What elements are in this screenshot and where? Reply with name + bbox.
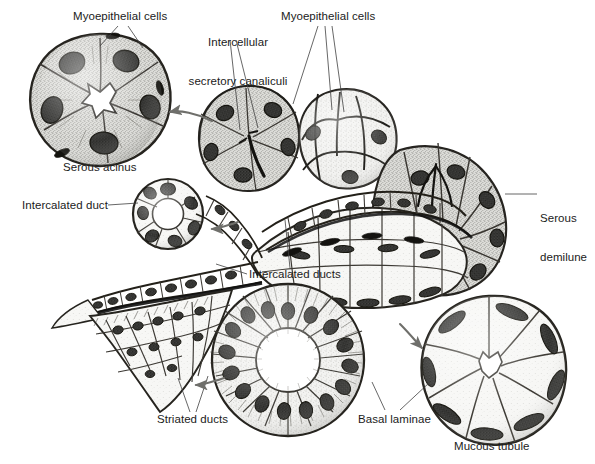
label-intercalated-duct: Intercalated duct bbox=[22, 199, 108, 212]
label-serous-demilune: Serous demilune bbox=[540, 186, 587, 290]
label-myoepithelial-cells-left: Myoepithelial cells bbox=[73, 10, 167, 23]
intercalated-duct-cross-section bbox=[133, 179, 203, 249]
label-line-1: Serous bbox=[540, 212, 587, 225]
mucous-tubule-cross-section bbox=[420, 296, 568, 445]
diagram-artwork bbox=[0, 0, 595, 464]
label-serous-acinus: Serous acinus bbox=[63, 161, 137, 174]
label-line-2: secretory canaliculi bbox=[182, 75, 294, 88]
label-line-1: Intercellular bbox=[182, 36, 294, 49]
label-intercellular-secretory-canaliculi: Intercellular secretory canaliculi bbox=[182, 10, 294, 114]
label-mucous-tubule: Mucous tubule bbox=[454, 440, 529, 453]
salivary-gland-diagram: Myoepithelial cells Intercellular secret… bbox=[0, 0, 595, 464]
label-line-2: demilune bbox=[540, 251, 587, 264]
striated-duct-cross-section bbox=[210, 284, 364, 436]
label-basal-laminae: Basal laminae bbox=[358, 413, 431, 426]
serous-acinus-cross-section bbox=[30, 32, 170, 166]
label-myoepithelial-cells-right: Myoepithelial cells bbox=[281, 10, 375, 23]
label-intercalated-ducts: Intercalated ducts bbox=[249, 268, 341, 281]
label-striated-ducts: Striated ducts bbox=[157, 413, 228, 426]
